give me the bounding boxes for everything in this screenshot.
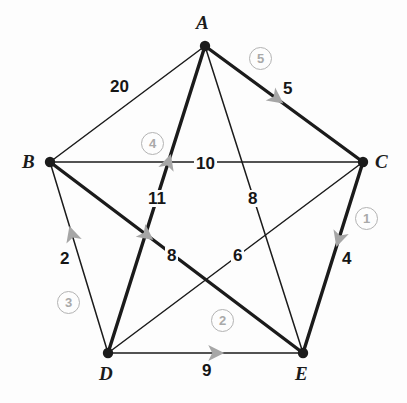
vertex-label-a: A [196, 13, 209, 32]
edge-weight-label-cd: 6 [231, 247, 244, 264]
graph-edge-ce [303, 162, 363, 353]
edge-weight-label-ae: 8 [246, 190, 259, 207]
graph-node-d [103, 348, 113, 358]
graph-node-a [200, 41, 210, 51]
graph-edge-ac [205, 46, 363, 162]
graph-node-b [45, 157, 55, 167]
graph-edge-ab [50, 46, 205, 162]
weighted-graph-figure: ABCDE 2051181028649 12345 [0, 0, 407, 403]
edge-layer [50, 46, 363, 353]
graph-node-c [358, 157, 368, 167]
edge-weight-label-bd: 2 [58, 250, 71, 267]
step-badge-5: 5 [249, 47, 272, 70]
edge-weight-label-ad: 11 [146, 190, 168, 207]
node-layer [45, 41, 368, 358]
step-badge-4: 4 [141, 132, 164, 155]
vertex-label-b: B [22, 152, 35, 171]
step-badge-3: 3 [57, 291, 80, 314]
edge-weight-label-de: 9 [200, 362, 213, 379]
graph-canvas [0, 0, 407, 403]
graph-node-e [298, 348, 308, 358]
edge-weight-label-ac: 5 [281, 80, 294, 97]
edge-weight-label-bc: 10 [194, 155, 217, 172]
edge-weight-label-be: 8 [165, 247, 178, 264]
step-badge-2: 2 [211, 309, 234, 332]
direction-arrow-icon-ce [329, 229, 349, 249]
vertex-label-c: C [375, 152, 388, 171]
edge-weight-label-ab: 20 [108, 78, 131, 95]
vertex-label-d: D [99, 364, 113, 383]
step-badge-1: 1 [355, 207, 378, 230]
direction-arrow-icon-bd [62, 224, 82, 244]
vertex-label-e: E [295, 364, 308, 383]
arrow-layer [62, 88, 349, 361]
edge-weight-label-ce: 4 [340, 250, 353, 267]
